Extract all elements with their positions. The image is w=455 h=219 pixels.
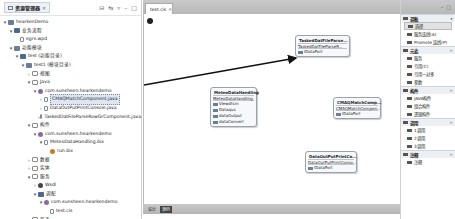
- close-icon[interactable]: ✕: [42, 5, 46, 11]
- tab-source[interactable]: 源码: [160, 206, 172, 213]
- palette-item[interactable]: 逻辑构件: [401, 110, 455, 118]
- tree-item-label: 服务: [40, 173, 50, 182]
- minimize-icon[interactable]: –: [124, 4, 127, 11]
- maximize-icon[interactable]: □: [131, 4, 137, 11]
- file-icon: [20, 37, 24, 42]
- component-title: MeteoDataHandling: [214, 90, 259, 95]
- project-icon: [26, 63, 32, 68]
- palette-item[interactable]: 服务连线(A): [401, 30, 455, 38]
- palette-item[interactable]: JAVA构件: [401, 94, 455, 102]
- chevron-icon[interactable]: ≈: [449, 88, 453, 93]
- palette-section-title: 元素: [410, 48, 418, 54]
- wall-icon: [38, 183, 43, 188]
- palette-section-header[interactable]: 调板▸: [401, 14, 455, 22]
- tool-icon: [407, 129, 412, 132]
- file-icon: [44, 140, 48, 145]
- palette-item[interactable]: 2调用: [401, 134, 455, 142]
- tree-item-label: run.bix: [57, 147, 73, 156]
- palette-item[interactable]: 服务: [401, 54, 455, 62]
- file-icon: [40, 114, 42, 119]
- tool-icon: [407, 81, 412, 84]
- palette-item[interactable]: Promote 连线(P): [401, 38, 455, 46]
- palette-top-bar: – □: [401, 0, 455, 14]
- chevron-icon[interactable]: ≈: [449, 152, 453, 157]
- component-title: CMAQMatchComp...: [337, 100, 382, 105]
- tree-item-label: 视图: [40, 70, 50, 79]
- palette-item[interactable]: 注释: [401, 158, 455, 166]
- port-row[interactable]: dataConvert: [213, 119, 254, 125]
- palette-item-label: 注释: [414, 159, 422, 165]
- view-menu-icon[interactable]: ▿: [117, 4, 120, 11]
- palette-section-header[interactable]: 元素≈: [401, 46, 455, 54]
- folder-icon: [32, 174, 38, 179]
- palette-section-title: 调板: [410, 16, 418, 22]
- component-dataout[interactable]: DataOutPutPrintCo... DataOutPutPrintCons…: [305, 151, 357, 173]
- tool-icon: [407, 73, 412, 76]
- palette-item[interactable]: 1调用: [401, 126, 455, 134]
- palette-item-label: 3调用: [414, 143, 425, 149]
- chevron-icon[interactable]: ▸: [451, 16, 453, 21]
- component-tasked[interactable]: TaskedDatFileParse... TaskedDatFileParse…: [295, 35, 350, 57]
- palette-item[interactable]: 引用一对多: [401, 70, 455, 78]
- project-icon: [8, 20, 14, 25]
- component-meteo[interactable]: MeteoDataHandling MeteoDataHandling View…: [210, 87, 257, 127]
- project-icon: [14, 46, 20, 51]
- minimize-icon[interactable]: –: [441, 4, 444, 10]
- diagram-canvas[interactable]: TaskedDatFileParse... TaskedDatFileParse…: [143, 14, 395, 204]
- close-icon[interactable]: ✕: [168, 7, 172, 12]
- palette-item[interactable]: 选择: [404, 22, 452, 30]
- palette-item-label: 引用(C): [414, 63, 428, 69]
- package-icon: [38, 132, 43, 137]
- folder-icon: [403, 49, 408, 52]
- tree-item[interactable]: ›报表: [0, 216, 141, 219]
- chevron-icon[interactable]: ≈: [449, 120, 453, 125]
- editor-tab-label: test.cis: [150, 7, 166, 12]
- component-title: DataOutPutPrintCo...: [309, 154, 357, 159]
- folder-icon: [32, 166, 38, 171]
- palette-section-header[interactable]: 调用≈: [401, 118, 455, 126]
- folder-icon: [32, 157, 38, 162]
- run-icon: [50, 149, 55, 154]
- component-cmaq[interactable]: CMAQMatchComp... CMAQMatchCompon... IDat…: [333, 97, 381, 119]
- tool-icon: [407, 137, 412, 140]
- link-editor-icon[interactable]: ⇆: [108, 4, 113, 11]
- tree-item-label: egrs.wpd: [26, 35, 47, 44]
- package-icon: [44, 200, 49, 205]
- tab-design[interactable]: 设计: [146, 206, 158, 213]
- maximize-icon[interactable]: □: [446, 4, 451, 10]
- palette-section-header[interactable]: 注释≈: [401, 150, 455, 158]
- palette-item[interactable]: 参数: [401, 78, 455, 86]
- palette-section-header[interactable]: 构件≈: [401, 86, 455, 94]
- collapse-all-icon[interactable]: ⊟: [99, 4, 104, 11]
- explorer-tab[interactable]: 资源管理器 ✕: [4, 2, 50, 13]
- editor-tab-test-cis[interactable]: test.cis ✕: [145, 3, 173, 14]
- port-icon: [298, 51, 303, 54]
- explorer-toolbar: ⊟ ⇆ ▿ – □: [99, 4, 137, 11]
- tree-item-label: hearkenDemo: [16, 18, 48, 27]
- folder-icon: [32, 71, 38, 76]
- tool-icon: [407, 161, 412, 164]
- palette-item[interactable]: 引用(C): [401, 62, 455, 70]
- tree-item-label: test (功能目录): [28, 52, 62, 61]
- tool-icon: [408, 25, 413, 28]
- chevron-icon[interactable]: ≈: [449, 48, 453, 53]
- folder-icon: [32, 217, 38, 219]
- palette-item-label: Promote 连线(P): [414, 39, 447, 45]
- tree-item-label: 构件: [40, 121, 50, 130]
- tool-icon: [407, 41, 412, 44]
- palette-section-title: 调用: [410, 120, 418, 126]
- palette-item[interactable]: 组合构件: [401, 102, 455, 110]
- tree-item-label: Wsdl: [45, 181, 56, 190]
- palette-item-label: 2调用: [414, 135, 425, 141]
- component-title: TaskedDatFileParse...: [299, 38, 348, 43]
- tool-icon: [407, 105, 412, 108]
- palette-item[interactable]: 3调用: [401, 142, 455, 150]
- palette-section-title: 构件: [410, 88, 418, 94]
- palette-item-label: 逻辑构件: [414, 111, 430, 117]
- file-icon: [44, 97, 48, 102]
- palette-item-label: 参数: [414, 79, 422, 85]
- package-icon: [38, 89, 43, 94]
- flow-icon: [14, 28, 20, 33]
- palette-section-title: 注释: [410, 152, 418, 158]
- tree-item-label: 实体: [40, 164, 50, 173]
